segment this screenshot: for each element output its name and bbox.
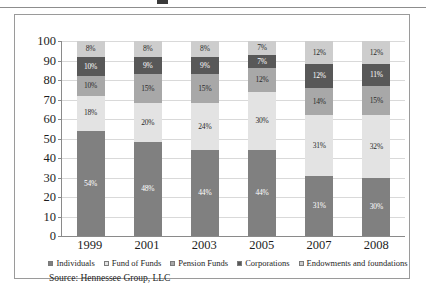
legend-swatch-icon [299,261,304,266]
bar-segment[interactable]: 18% [77,96,105,131]
bar-segment[interactable]: 24% [191,103,219,150]
stacked-bar[interactable]: 8%10%10%18%54% [77,41,105,236]
bar-segment-label: 10% [84,82,97,90]
bar-segment[interactable]: 8% [77,41,105,57]
bar-segment[interactable]: 12% [362,41,390,64]
bar-segment-label: 14% [313,98,326,106]
bar-segment-label: 54% [84,180,97,188]
bar-segment-label: 30% [370,203,383,211]
bar-segment[interactable]: 9% [191,57,219,75]
bar-segment[interactable]: 9% [134,57,162,75]
bar-segment[interactable]: 10% [77,76,105,96]
stacked-bar[interactable]: 8%9%15%20%48% [134,41,162,236]
y-tick-label: 100 [37,35,56,48]
x-axis-label: 2007 [290,239,347,252]
bar-segment-label: 15% [198,85,211,93]
bar-segment[interactable]: 12% [248,68,276,91]
legend-item[interactable]: Endowments and foundations [299,259,408,268]
page-top-rule [0,7,426,8]
legend-item[interactable]: Corporations [237,259,289,268]
legend-swatch-icon [170,261,175,266]
x-axis-label: 1999 [61,239,118,252]
legend-item[interactable]: Pension Funds [170,259,228,268]
bar-segment[interactable]: 31% [305,115,333,175]
bar-segment-label: 12% [370,49,383,57]
y-tick-label: 70 [44,93,57,106]
bar-segment[interactable]: 15% [191,74,219,103]
bar-slot: 8%9%15%24%44% [176,41,233,236]
y-tick-label: 80 [44,74,57,87]
bar-segment[interactable]: 15% [134,74,162,103]
chart-legend: IndividualsFund of FundsPension FundsCor… [37,259,419,268]
bar-segment[interactable]: 30% [362,178,390,237]
legend-swatch-icon [237,261,242,266]
bar-segment-label: 48% [141,185,154,193]
bar-segment-label: 44% [255,189,268,197]
bar-slot: 12%12%14%31%31% [291,41,348,236]
bar-segment-label: 12% [313,72,326,80]
bar-segment[interactable]: 30% [248,92,276,151]
bar-segment[interactable]: 7% [248,55,276,69]
plot-area: 0102030405060708090100 8%10%10%18%54%8%9… [61,41,405,237]
bar-segment-label: 8% [200,45,210,53]
stacked-bar[interactable]: 12%11%15%32%30% [362,41,390,236]
bar-slot: 8%9%15%20%48% [119,41,176,236]
bar-slot: 7%7%12%30%44% [234,41,291,236]
bar-segment[interactable]: 31% [305,176,333,236]
bar-segment-label: 20% [141,119,154,127]
bar-segment-label: 7% [257,58,267,66]
bar-segment[interactable]: 12% [305,64,333,87]
legend-label: Pension Funds [178,259,228,268]
plot-axes: 0102030405060708090100 8%10%10%18%54%8%9… [61,41,405,237]
bar-segment-label: 44% [198,189,211,197]
bar-segment[interactable]: 8% [191,41,219,57]
bar-segment-label: 18% [84,109,97,117]
legend-swatch-icon [104,261,109,266]
x-axis-label: 2003 [176,239,233,252]
y-tick-label: 50 [44,132,57,145]
bar-segment[interactable]: 14% [305,88,333,115]
bar-segment-label: 30% [255,117,268,125]
bar-segment-label: 9% [200,62,210,70]
bar-segment[interactable]: 12% [305,41,333,64]
legend-swatch-icon [48,261,53,266]
bar-segment[interactable]: 15% [362,86,390,115]
x-axis-label: 2008 [348,239,405,252]
bar-segment-label: 7% [257,44,267,52]
chart-frame: 0102030405060708090100 8%10%10%18%54%8%9… [14,14,410,279]
bar-segment[interactable]: 8% [134,41,162,57]
bar-segment-label: 8% [143,45,153,53]
legend-item[interactable]: Individuals [48,259,94,268]
bar-segment[interactable]: 20% [134,103,162,142]
bar-segment-label: 24% [198,123,211,131]
bar-segment-label: 10% [84,63,97,71]
bar-segment[interactable]: 54% [77,131,105,236]
source-note: Source: Hennessee Group, LLC [49,274,170,284]
bar-segment[interactable]: 10% [77,57,105,77]
bar-segment[interactable]: 44% [248,150,276,236]
bar-segment[interactable]: 32% [362,115,390,177]
bar-segment-label: 12% [313,49,326,57]
bar-segment-label: 31% [313,202,326,210]
legend-label: Individuals [56,259,94,268]
y-tick-label: 90 [44,54,57,67]
bar-segment[interactable]: 44% [191,150,219,236]
bar-segment-label: 15% [370,97,383,105]
x-axis-label: 2005 [233,239,290,252]
bar-group: 8%10%10%18%54%8%9%15%20%48%8%9%15%24%44%… [62,41,405,236]
bar-segment-label: 12% [255,76,268,84]
page-cut-mark [157,0,168,4]
document-page: 0102030405060708090100 8%10%10%18%54%8%9… [0,0,426,290]
stacked-bar[interactable]: 7%7%12%30%44% [248,41,276,236]
bar-segment[interactable]: 11% [362,64,390,85]
y-tick-label: 30 [44,171,57,184]
stacked-bar[interactable]: 12%12%14%31%31% [305,41,333,236]
y-tick-label: 0 [50,230,56,243]
bar-segment[interactable]: 48% [134,142,162,236]
stacked-bar[interactable]: 8%9%15%24%44% [191,41,219,236]
bar-segment-label: 31% [313,142,326,150]
legend-item[interactable]: Fund of Funds [104,259,162,268]
y-tick-label: 60 [44,113,57,126]
bar-segment[interactable]: 7% [248,41,276,55]
bar-segment-label: 8% [86,45,96,53]
